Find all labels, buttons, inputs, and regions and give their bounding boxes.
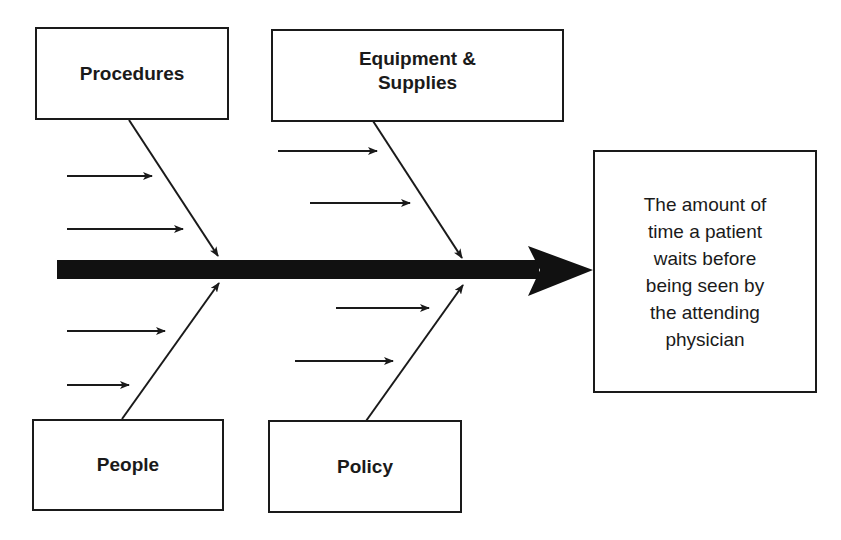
fishbone-diagram: Procedures Equipment & Supplies People P… — [0, 0, 841, 540]
cause-label-people: People — [97, 453, 159, 477]
cause-label-equipment: Equipment & Supplies — [359, 47, 476, 95]
effect-label: The amount of time a patient waits befor… — [644, 191, 767, 353]
bone-people — [122, 283, 219, 419]
main-spine-arrow — [57, 246, 593, 296]
cause-box-equipment: Equipment & Supplies — [271, 29, 564, 122]
bone-equipment — [373, 121, 462, 258]
bone-policy — [366, 285, 463, 421]
cause-label-policy: Policy — [337, 455, 393, 479]
cause-label-procedures: Procedures — [80, 62, 185, 86]
cause-box-policy: Policy — [268, 420, 462, 513]
cause-box-procedures: Procedures — [35, 27, 229, 120]
cause-box-people: People — [32, 419, 224, 511]
effect-box: The amount of time a patient waits befor… — [593, 150, 817, 393]
bone-procedures — [129, 120, 218, 256]
